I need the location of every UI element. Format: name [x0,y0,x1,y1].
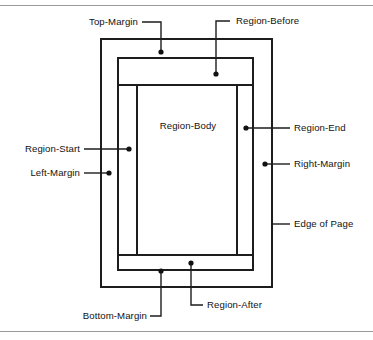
label-region-after: Region-After [207,299,263,310]
region-before-dot [213,71,218,76]
edge-of-page-rect [101,39,272,287]
diagram-canvas: Top-Margin Region-Before Region-Start Le… [0,0,373,340]
top-margin-dot [158,49,163,54]
label-bottom-margin: Bottom-Margin [83,310,147,321]
left-margin-dot [106,170,111,175]
bottom-margin-dot [158,268,163,273]
bottom-margin-leader [150,271,161,316]
region-start-dot [126,146,131,151]
label-top-margin: Top-Margin [89,16,138,27]
label-region-body: Region-Body [160,120,217,131]
margin-box-rect [118,58,253,270]
top-margin-leader [142,22,161,52]
right-margin-dot [262,161,267,166]
label-region-before: Region-Before [236,15,299,26]
page-region-diagram: Top-Margin Region-Before Region-Start Le… [0,0,373,340]
label-right-margin: Right-Margin [294,158,350,169]
label-region-end: Region-End [294,122,346,133]
region-end-dot [243,125,248,130]
region-after-dot [188,260,193,265]
label-left-margin: Left-Margin [30,167,80,178]
label-region-start: Region-Start [25,143,80,154]
label-edge-of-page: Edge of Page [294,218,353,229]
region-before-leader [216,21,230,74]
